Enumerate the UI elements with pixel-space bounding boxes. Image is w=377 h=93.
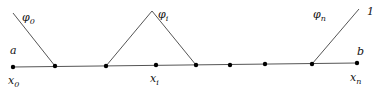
b-label: b [357, 45, 364, 58]
one-label: 1 [367, 5, 374, 18]
axis-line [13, 63, 357, 67]
node [104, 64, 108, 68]
node [154, 63, 158, 67]
phi0-label: φ0 [22, 11, 35, 26]
node [310, 62, 314, 66]
phii-function [106, 11, 196, 66]
node [263, 62, 267, 66]
node [194, 63, 198, 67]
xi-label: xi [150, 72, 159, 87]
hat-functions-diagram: φ0 φi φn 1 a b x0 xi xn [0, 0, 377, 93]
node [355, 61, 359, 65]
xn-label: xn [350, 71, 361, 86]
phii-label: φi [158, 8, 169, 23]
a-label: a [10, 44, 17, 57]
node [53, 64, 57, 68]
node [228, 63, 232, 67]
node [11, 65, 15, 69]
phin-label: φn [313, 8, 326, 23]
x0-label: x0 [8, 74, 19, 89]
